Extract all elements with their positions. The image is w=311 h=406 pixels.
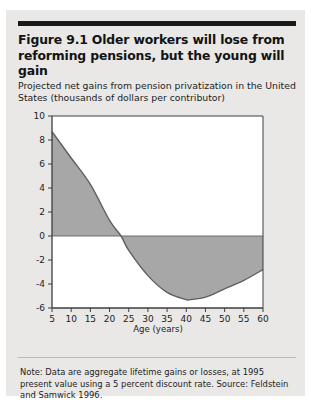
y-axis-tick-labels: 1086420-2-4-6 [34,111,46,313]
note-divider [18,357,296,358]
figure-top-rule [18,21,296,26]
y-tick-label: -4 [36,279,45,289]
figure-title: Figure 9.1 Older workers will lose from … [18,32,300,79]
x-axis-tick-labels: 51015202530354045505560 [49,314,269,324]
chart-plot-area: 1086420-2-4-6 51015202530354045505560 Ag… [6,106,305,341]
x-tick-label: 50 [219,314,231,324]
y-tick-label: 8 [39,135,45,145]
x-tick-label: 5 [49,314,55,324]
x-tick-label: 30 [142,314,154,324]
x-tick-label: 20 [104,314,116,324]
chart-svg: 1086420-2-4-6 51015202530354045505560 Ag… [6,106,305,341]
y-tick-label: 0 [39,231,45,241]
figure-panel: Figure 9.1 Older workers will lose from … [6,10,305,396]
y-tick-label: 4 [39,183,45,193]
x-tick-label: 55 [238,314,249,324]
x-tick-label: 40 [181,314,193,324]
y-tick-label: 2 [39,207,45,217]
y-tick-label: 6 [39,159,45,169]
x-tick-label: 10 [65,314,77,324]
figure-note: Note: Data are aggregate lifetime gains … [20,367,295,402]
x-axis-title: Age (years) [133,324,183,334]
x-tick-label: 45 [200,314,211,324]
y-tick-label: -2 [36,255,45,265]
x-tick-label: 60 [257,314,269,324]
x-tick-label: 25 [123,314,134,324]
figure-subtitle: Projected net gains from pension privati… [18,80,304,105]
x-tick-label: 15 [85,314,96,324]
y-tick-label: 10 [34,111,46,121]
y-tick-label: -6 [36,303,45,313]
x-tick-label: 35 [161,314,172,324]
